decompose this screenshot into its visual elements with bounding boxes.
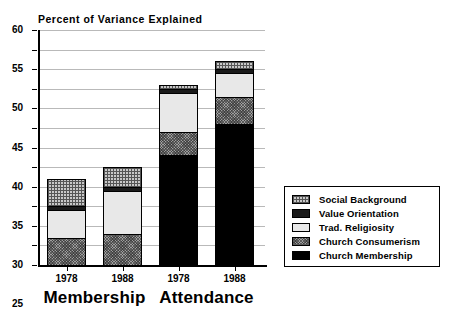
y-tick-mark: 15 bbox=[32, 206, 37, 207]
bar-segment bbox=[216, 74, 253, 98]
x-tick-mark bbox=[179, 267, 180, 271]
y-axis-line bbox=[38, 30, 40, 267]
bar-segment bbox=[160, 133, 197, 157]
bar-stack bbox=[215, 61, 254, 265]
bar-segment bbox=[48, 239, 85, 266]
y-tick-mark: 25 bbox=[32, 167, 37, 168]
legend-item: Church Consumerism bbox=[292, 235, 420, 248]
y-tick-label: 45 bbox=[12, 143, 23, 153]
y-tick-label: 60 bbox=[12, 25, 23, 35]
legend-swatch-icon bbox=[292, 223, 310, 232]
bar-stack bbox=[103, 167, 142, 265]
gridline bbox=[38, 50, 265, 51]
bar-segment bbox=[104, 168, 141, 188]
legend-swatch-icon bbox=[292, 209, 310, 218]
y-tick-mark: 5 bbox=[32, 245, 37, 246]
legend-label: Church Membership bbox=[319, 250, 413, 261]
y-tick-label: 50 bbox=[12, 103, 23, 113]
bar-segment bbox=[160, 156, 197, 266]
bar-stack bbox=[47, 179, 86, 265]
y-tick-mark: 60 bbox=[32, 30, 37, 31]
variance-explained-chart: Percent of Variance Explained 0510152025… bbox=[0, 0, 450, 320]
bar-segment bbox=[160, 94, 197, 133]
x-tick-label: 1978 bbox=[149, 273, 209, 284]
y-tick-mark: 45 bbox=[32, 89, 37, 90]
y-tick-label: 35 bbox=[12, 221, 23, 231]
legend-item: Trad. Religiosity bbox=[292, 221, 394, 234]
y-tick-mark: 50 bbox=[32, 69, 37, 70]
bar-segment bbox=[104, 192, 141, 235]
y-tick-label: 25 bbox=[12, 299, 23, 309]
legend-label: Value Orientation bbox=[319, 208, 399, 219]
bar-segment bbox=[48, 211, 85, 238]
y-tick-mark: 55 bbox=[32, 50, 37, 51]
bar-segment bbox=[104, 235, 141, 266]
legend-swatch-icon bbox=[292, 195, 310, 204]
y-tick-mark: 35 bbox=[32, 128, 37, 129]
legend-item: Social Background bbox=[292, 193, 407, 206]
y-tick-mark: 40 bbox=[32, 108, 37, 109]
bar-segment bbox=[216, 125, 253, 266]
legend-label: Church Consumerism bbox=[319, 236, 420, 247]
x-tick-label: 1988 bbox=[93, 273, 153, 284]
chart-title: Percent of Variance Explained bbox=[38, 13, 202, 25]
chart-legend: Social BackgroundValue OrientationTrad. … bbox=[284, 186, 440, 267]
x-tick-mark bbox=[123, 267, 124, 271]
legend-swatch-icon bbox=[292, 251, 310, 260]
y-tick-label: 40 bbox=[12, 182, 23, 192]
bar-segment bbox=[48, 180, 85, 207]
gridline bbox=[38, 30, 265, 31]
bar-stack bbox=[159, 85, 198, 265]
legend-label: Social Background bbox=[319, 194, 407, 205]
y-tick-label: 30 bbox=[12, 260, 23, 270]
y-tick-mark: 30 bbox=[32, 148, 37, 149]
bar-segment bbox=[216, 98, 253, 125]
x-tick-mark bbox=[235, 267, 236, 271]
legend-swatch-icon bbox=[292, 237, 310, 246]
x-tick-label: 1988 bbox=[205, 273, 265, 284]
legend-item: Church Membership bbox=[292, 249, 413, 262]
x-axis-line bbox=[38, 265, 267, 267]
y-tick-mark: 10 bbox=[32, 226, 37, 227]
legend-item: Value Orientation bbox=[292, 207, 399, 220]
x-tick-label: 1978 bbox=[37, 273, 97, 284]
group-label-attendance: Attendance bbox=[137, 288, 277, 308]
y-tick-mark: 20 bbox=[32, 187, 37, 188]
x-tick-mark bbox=[67, 267, 68, 271]
bar-segment bbox=[216, 62, 253, 70]
legend-label: Trad. Religiosity bbox=[319, 222, 394, 233]
plot-area: 051015202530354045505560 bbox=[38, 30, 265, 265]
y-tick-label: 55 bbox=[12, 64, 23, 74]
y-tick-mark: 0 bbox=[32, 265, 37, 266]
